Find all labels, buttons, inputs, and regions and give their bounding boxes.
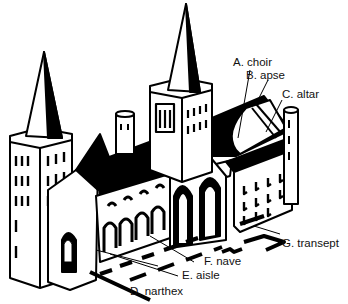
label-apse: B. apse [246, 70, 285, 82]
label-transept: G. transept [282, 238, 339, 250]
central-tower [150, 4, 212, 182]
small-turret [116, 111, 134, 154]
label-choir: A. choir [233, 57, 272, 69]
label-nave: F. nave [204, 256, 241, 268]
label-altar: C. altar [282, 89, 319, 101]
cathedral-illustration [0, 0, 348, 304]
label-narthex: D. narthex [130, 286, 183, 298]
label-aisle: E. aisle [182, 270, 220, 282]
